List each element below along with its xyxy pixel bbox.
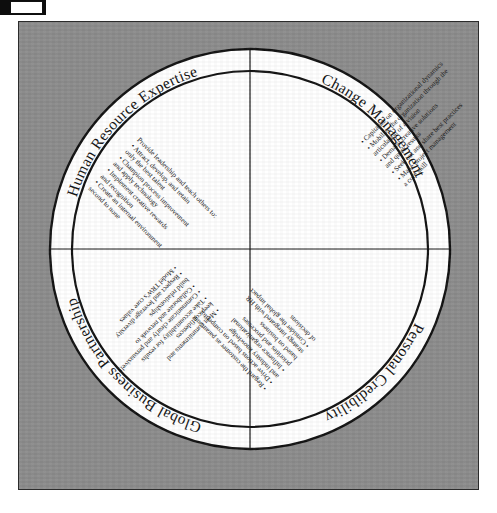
scan-artifact	[0, 0, 46, 15]
poster-panel: Human Resource Expertise Change Manageme…	[18, 21, 479, 490]
scan-artifact-box	[10, 1, 43, 14]
competency-model-diagram: Human Resource Expertise Change Manageme…	[45, 44, 455, 454]
